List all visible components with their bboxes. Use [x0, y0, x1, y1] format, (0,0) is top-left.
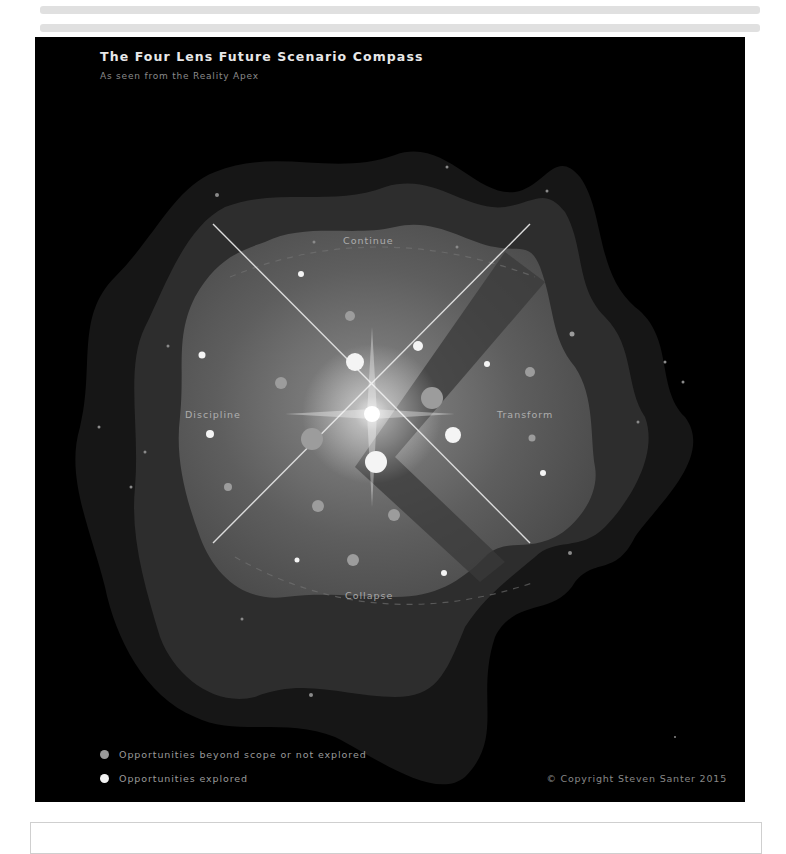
- lower-content-box: [30, 822, 762, 854]
- copyright-notice: © Copyright Steven Santer 2015: [546, 773, 727, 784]
- quadrant-label-discipline: Discipline: [185, 409, 241, 420]
- compass-figure: The Four Lens Future Scenario Compass As…: [35, 37, 745, 802]
- page-background-text-line: [40, 24, 760, 32]
- quadrant-label-continue: Continue: [343, 235, 394, 246]
- legend-item-unexplored: Opportunities beyond scope or not explor…: [100, 749, 367, 760]
- white-dot-icon: [100, 774, 109, 783]
- grey-dot-icon: [100, 750, 109, 759]
- compass-graphic: [35, 37, 745, 802]
- legend-label: Opportunities beyond scope or not explor…: [119, 749, 367, 760]
- page-background-text-line: [40, 6, 760, 14]
- legend-label: Opportunities explored: [119, 773, 248, 784]
- quadrant-label-collapse: Collapse: [345, 590, 393, 601]
- figure-subtitle: As seen from the Reality Apex: [100, 71, 259, 81]
- quadrant-label-transform: Transform: [497, 409, 553, 420]
- figure-title: The Four Lens Future Scenario Compass: [100, 49, 423, 64]
- legend-item-explored: Opportunities explored: [100, 773, 248, 784]
